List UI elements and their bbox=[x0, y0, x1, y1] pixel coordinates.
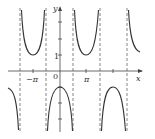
x-axis-label: x bbox=[136, 74, 141, 83]
y-one-label: 1 bbox=[54, 52, 59, 61]
y-axis-arrow-icon bbox=[58, 6, 62, 11]
axes bbox=[8, 8, 142, 132]
pi-label: π bbox=[83, 75, 90, 84]
origin-label: 0 bbox=[53, 72, 58, 81]
sec-curves bbox=[8, 10, 140, 131]
x-axis-arrow-icon bbox=[138, 69, 143, 73]
secant-graph: x y 0 −π π 1 bbox=[0, 0, 155, 139]
neg-pi-label: −π bbox=[26, 75, 39, 84]
asymptotes bbox=[20, 8, 127, 131]
y-axis-label: y bbox=[52, 4, 58, 13]
